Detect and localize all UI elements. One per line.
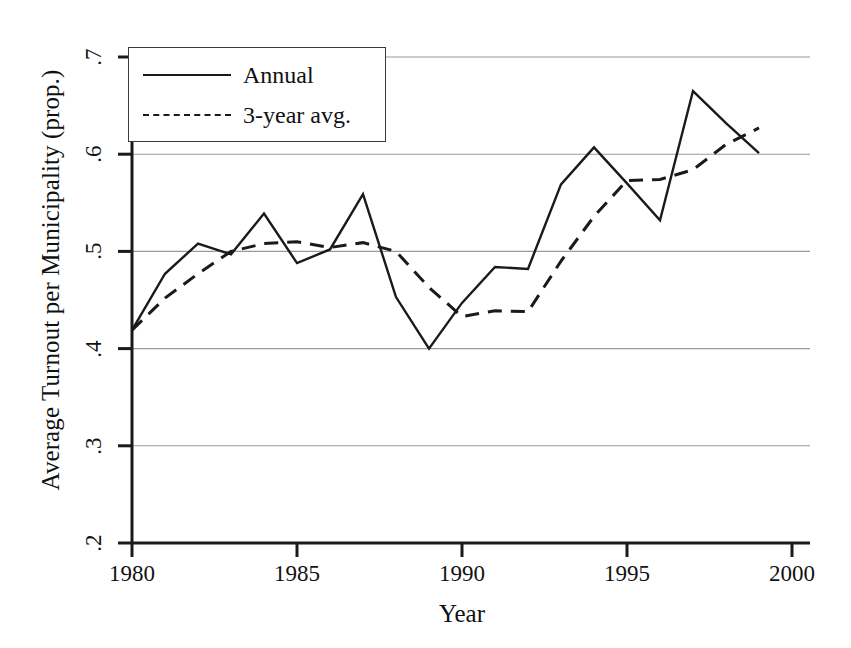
- series-line-3-year-avg: [132, 128, 759, 330]
- x-tick-label: 1985: [252, 561, 342, 587]
- x-tick-label: 1980: [87, 561, 177, 587]
- x-tick-label: 1995: [582, 561, 672, 587]
- x-tick-label: 2000: [747, 561, 837, 587]
- y-tick-label: .3: [81, 426, 103, 466]
- x-axis-title: Year: [132, 600, 792, 628]
- legend-item-three-year-avg: 3-year avg.: [129, 96, 385, 134]
- legend-label-annual: Annual: [243, 62, 314, 89]
- legend-line-solid-icon: [143, 68, 231, 82]
- legend-item-annual: Annual: [129, 56, 385, 94]
- chart-figure: Average Turnout per Municipality (prop.)…: [0, 0, 851, 648]
- y-tick-label: .4: [81, 329, 103, 369]
- y-tick-label: .2: [81, 523, 103, 563]
- chart-legend: Annual 3-year avg.: [128, 47, 386, 142]
- legend-label-three-year-avg: 3-year avg.: [243, 102, 351, 129]
- legend-line-dashed-icon: [143, 108, 231, 122]
- y-tick-label: .6: [81, 134, 103, 174]
- y-tick-label: .5: [81, 231, 103, 271]
- y-tick-label: .7: [81, 37, 103, 77]
- x-tick-label: 1990: [417, 561, 507, 587]
